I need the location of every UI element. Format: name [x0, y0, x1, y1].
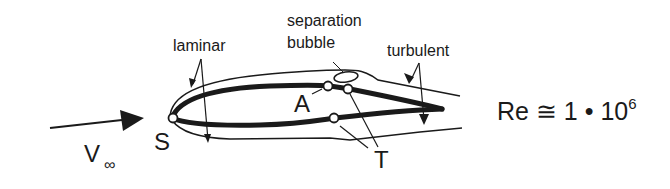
- label-freestream-velocity: V: [84, 140, 100, 167]
- reynolds-exponent: 6: [628, 95, 636, 112]
- label-bubble: bubble: [287, 34, 335, 51]
- label-turbulent: turbulent: [387, 42, 450, 59]
- label-reynolds-number: Re ≅ 1 • 106: [497, 95, 637, 125]
- freestream-arrow: [50, 110, 144, 131]
- label-point-S: S: [154, 128, 170, 155]
- transition-point-upper-marker: [344, 85, 353, 94]
- separation-bubble-shape: [333, 70, 358, 83]
- transition-point-lower-marker: [330, 114, 339, 123]
- label-separation: separation: [287, 12, 362, 29]
- separation-point-leader: [312, 89, 322, 94]
- turbulent-pointer: [404, 63, 429, 125]
- separation-point-marker: [324, 82, 333, 91]
- label-point-A: A: [294, 90, 310, 117]
- label-point-T: T: [374, 146, 389, 173]
- transition-leader-lower: [340, 126, 368, 148]
- stagnation-point-marker: [169, 114, 178, 123]
- reynolds-base: Re ≅ 1 • 10: [497, 97, 628, 125]
- airfoil-diagram: laminar separation bubble turbulent A S …: [0, 0, 670, 189]
- label-freestream-infinity: ∞: [104, 156, 115, 173]
- label-laminar: laminar: [173, 37, 226, 54]
